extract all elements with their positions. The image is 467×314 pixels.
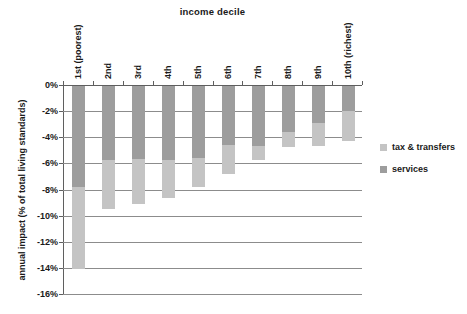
y-axis-tick xyxy=(59,85,63,86)
bar-segment-tax-transfers-9 xyxy=(312,123,325,147)
bar-segment-services-8 xyxy=(282,86,295,132)
category-axis-tick xyxy=(213,81,214,85)
bar-segment-services-10 xyxy=(342,86,355,111)
chart-figure: income decile annual impact (% of total … xyxy=(0,0,467,314)
category-axis-tick xyxy=(93,81,94,85)
gridline xyxy=(63,294,362,295)
bar-segment-services-2 xyxy=(102,86,115,160)
category-label: 5th xyxy=(193,66,204,80)
y-tick-label: 0% xyxy=(14,80,58,91)
legend-item: tax & transfers xyxy=(380,142,455,152)
legend-item: services xyxy=(380,164,428,174)
category-axis-tick xyxy=(123,81,124,85)
category-label: 8th xyxy=(283,66,294,80)
y-tick-label: -14% xyxy=(14,263,58,274)
bar-segment-services-1 xyxy=(72,86,85,187)
category-axis-tick xyxy=(302,81,303,85)
y-tick-label: -10% xyxy=(14,211,58,222)
y-tick-label: -4% xyxy=(14,132,58,143)
category-label: 4th xyxy=(163,66,174,80)
y-axis-tick xyxy=(59,137,63,138)
gridline xyxy=(63,216,362,217)
legend-label: tax & transfers xyxy=(392,142,455,152)
y-tick-label: -16% xyxy=(14,289,58,300)
category-label: 7th xyxy=(253,66,264,80)
legend-swatch-services xyxy=(380,166,387,173)
gridline xyxy=(63,268,362,269)
bar-segment-services-4 xyxy=(162,86,175,160)
category-label: 9th xyxy=(313,66,324,80)
y-axis-tick xyxy=(59,268,63,269)
bar-segment-tax-transfers-1 xyxy=(72,187,85,269)
y-tick-label: -2% xyxy=(14,106,58,117)
bar-segment-services-9 xyxy=(312,86,325,123)
legend-swatch-tax-transfers xyxy=(380,144,387,151)
bar-segment-tax-transfers-10 xyxy=(342,111,355,141)
category-label: 3rd xyxy=(133,65,144,79)
bar-segment-tax-transfers-2 xyxy=(102,160,115,208)
chart-title: income decile xyxy=(63,6,362,20)
y-axis-tick xyxy=(59,190,63,191)
category-axis-tick xyxy=(362,81,363,85)
bar-segment-services-7 xyxy=(252,86,265,146)
y-tick-label: -8% xyxy=(14,185,58,196)
y-axis-tick xyxy=(59,216,63,217)
y-axis-tick xyxy=(59,163,63,164)
bar-segment-services-6 xyxy=(222,86,235,145)
bar-segment-tax-transfers-5 xyxy=(192,158,205,187)
y-axis-tick xyxy=(59,111,63,112)
bar-segment-tax-transfers-7 xyxy=(252,146,265,160)
bar-segment-tax-transfers-8 xyxy=(282,132,295,148)
bar-segment-tax-transfers-3 xyxy=(132,159,145,203)
category-axis-tick xyxy=(332,81,333,85)
y-tick-label: -6% xyxy=(14,158,58,169)
y-axis-tick xyxy=(59,294,63,295)
category-axis-tick xyxy=(242,81,243,85)
legend-label: services xyxy=(392,164,428,174)
category-label: 6th xyxy=(223,66,234,80)
y-axis-tick xyxy=(59,242,63,243)
category-axis-tick xyxy=(183,81,184,85)
bar-segment-services-3 xyxy=(132,86,145,159)
category-axis-tick xyxy=(272,81,273,85)
bar-segment-services-5 xyxy=(192,86,205,158)
y-tick-label: -12% xyxy=(14,237,58,248)
y-axis-line xyxy=(63,81,64,295)
bar-segment-tax-transfers-6 xyxy=(222,145,235,174)
category-label: 2nd xyxy=(103,63,114,79)
category-axis-tick xyxy=(63,81,64,85)
category-label: 1st (poorest) xyxy=(73,24,84,79)
gridline xyxy=(63,242,362,243)
category-axis-tick xyxy=(153,81,154,85)
bar-segment-tax-transfers-4 xyxy=(162,160,175,198)
category-label: 10th (richest) xyxy=(343,22,354,79)
